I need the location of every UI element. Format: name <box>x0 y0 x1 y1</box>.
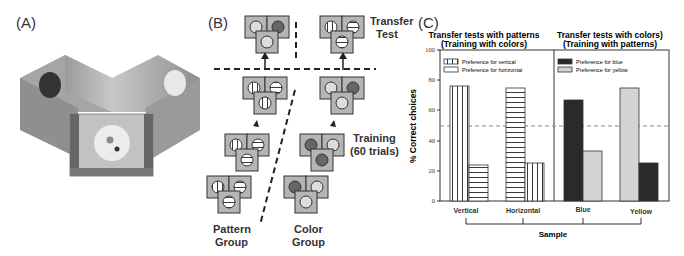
bar-chart: Transfer tests with patterns (Training w… <box>408 30 669 239</box>
stimulus-set-color-transfer <box>320 16 364 53</box>
svg-text:0: 0 <box>432 197 435 204</box>
bar-yellow-pref-yellow <box>620 88 639 201</box>
svg-text:80: 80 <box>429 76 436 83</box>
svg-text:60: 60 <box>429 106 436 113</box>
svg-text:Vertical: Vertical <box>454 207 479 214</box>
stimulus-set-pattern-training-3 <box>207 176 251 213</box>
bar-blue-pref-yellow <box>583 151 602 201</box>
svg-text:20: 20 <box>429 167 436 174</box>
chart-subtitle-left: (Training with colors) <box>441 39 527 49</box>
svg-text:40: 40 <box>429 137 436 144</box>
stimulus-set-pattern-training-2 <box>225 134 269 171</box>
stimulus-set-color-training-3 <box>284 176 328 213</box>
svg-text:100: 100 <box>425 46 435 53</box>
x-axis-label: Sample <box>539 230 568 239</box>
bee-icon <box>115 147 120 152</box>
bar-horizontal-pref-vertical <box>525 163 544 201</box>
figure-canvas: Transfer Test Training (60 trials) Patte… <box>0 0 684 256</box>
pattern-group-label: Pattern <box>213 223 251 235</box>
svg-text:Yellow: Yellow <box>630 208 652 215</box>
y-axis: 0 20 40 60 80 100 <box>425 46 440 204</box>
stimulus-set-color-training-1 <box>320 77 364 114</box>
color-group-label-2: Group <box>292 236 325 248</box>
light-stimulus <box>164 70 186 96</box>
svg-text:Horizontal: Horizontal <box>506 207 540 214</box>
y-axis-label: % Correct choices <box>408 89 418 163</box>
bar-horizontal-pref-horizontal <box>506 88 525 201</box>
color-group-label: Color <box>294 223 323 235</box>
bar-blue-pref-blue <box>564 100 583 201</box>
training-schematic: Transfer Test Training (60 trials) Patte… <box>207 15 414 248</box>
training-label: Training <box>353 132 396 144</box>
legend-right: Preference for blue Preference for yello… <box>558 59 628 73</box>
maze-apparatus-illustration <box>20 55 200 176</box>
bar-vertical-pref-vertical <box>450 86 469 201</box>
stimulus-set-pattern-transfer <box>245 16 289 53</box>
trials-label: (60 trials) <box>350 145 399 157</box>
svg-text:Blue: Blue <box>575 206 590 213</box>
x-axis: Vertical Horizontal Blue Yellow <box>454 206 653 215</box>
svg-text:Preference for horizontal: Preference for horizontal <box>462 67 522 73</box>
test-label: Test <box>376 28 398 40</box>
bar-yellow-pref-blue <box>639 163 658 201</box>
stimulus-set-pattern-training-1 <box>243 77 287 114</box>
dark-stimulus <box>39 72 61 98</box>
stimulus-set-color-training-2 <box>300 134 344 171</box>
legend-left: Preference for vertical Preference for h… <box>444 59 522 73</box>
sample-bracket <box>466 218 641 224</box>
bar-vertical-pref-horizontal <box>469 165 488 201</box>
chart-subtitle-right: (Training with patterns) <box>563 39 657 49</box>
svg-text:Preference for yellow: Preference for yellow <box>576 67 628 73</box>
transfer-label: Transfer <box>370 15 414 27</box>
pattern-group-label-2: Group <box>215 236 248 248</box>
svg-text:Preference for vertical: Preference for vertical <box>462 59 516 65</box>
svg-text:Preference for blue: Preference for blue <box>576 59 623 65</box>
